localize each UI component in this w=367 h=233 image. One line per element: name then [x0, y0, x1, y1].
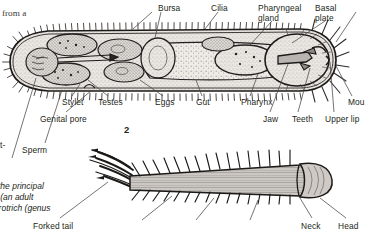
caption-line-3: strotrich (genus	[0, 203, 51, 213]
figure-number-2: 2	[124, 124, 129, 135]
label-stylet: Stylet	[62, 98, 84, 107]
label-pharynx: Pharynx	[241, 98, 272, 107]
body-text-top: from a	[2, 8, 26, 19]
label-eggs: Eggs	[155, 98, 175, 107]
label-basal-plate-line2: plate	[315, 14, 334, 23]
pharyngeal-gland	[202, 37, 234, 51]
clipped-text-fragment: t-	[0, 141, 5, 150]
label-basal-plate-line1: Basal	[315, 4, 336, 13]
sperm	[26, 48, 58, 76]
head	[300, 163, 332, 198]
label-jaw: Jaw	[263, 115, 278, 124]
label-testes: Testes	[98, 98, 123, 107]
label-pharyngeal-gland-line2: gland	[258, 14, 279, 23]
bursa	[141, 38, 175, 78]
label-genital-pore: Genital pore	[40, 115, 87, 124]
label-pharyngeal-gland-line1: Pharyngeal	[258, 4, 301, 13]
egg	[98, 39, 142, 61]
figure-2-illustration	[60, 149, 346, 221]
label-mouth-clipped: Mou	[348, 98, 365, 107]
label-cilia: Cilia	[211, 4, 228, 13]
label-gut: Gut	[196, 98, 210, 107]
label-neck: Neck	[301, 222, 320, 231]
label-teeth: Teeth	[292, 115, 313, 124]
label-forked-tail: Forked tail	[33, 222, 73, 231]
label-bursa: Bursa	[158, 4, 180, 13]
label-head: Head	[338, 222, 358, 231]
caption-line-2: l (an adult	[0, 192, 33, 202]
label-upper-lip: Upper lip	[325, 115, 359, 124]
scanned-figure-page: from a t- Bursa Cilia Pharyngeal gland B…	[0, 0, 367, 233]
clipped-body-line-above	[0, 0, 115, 6]
egg	[104, 62, 144, 82]
figure-2-body	[130, 165, 322, 197]
caption-line-1: the principal	[0, 181, 44, 191]
label-sperm: Sperm	[22, 146, 47, 155]
forked-tail	[88, 149, 134, 189]
